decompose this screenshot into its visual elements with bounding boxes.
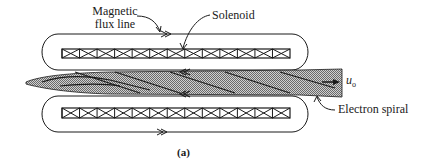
velocity-label: uo (346, 74, 356, 88)
leader-electron-spiral (314, 96, 335, 110)
solenoid-label: Solenoid (212, 9, 255, 22)
electron-beam (26, 69, 342, 97)
magnetic-flux-line-label: Magnetic flux line (90, 5, 140, 31)
leader-solenoid (180, 15, 210, 49)
label-line-2: flux line (90, 18, 140, 31)
top-solenoid (62, 49, 290, 58)
leader-magnetic-flux (137, 16, 161, 32)
figure-caption: (a) (177, 146, 190, 159)
velocity-subscript: o (352, 80, 356, 89)
solenoid-diagram (0, 0, 425, 166)
electron-spiral-label: Electron spiral (338, 103, 408, 116)
bottom-solenoid (62, 108, 290, 118)
